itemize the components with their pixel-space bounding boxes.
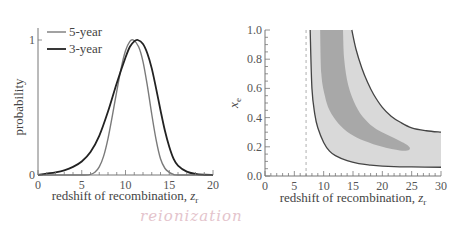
ionization-fraction-chart: 0510152025300.00.20.40.60.81.0 xe redshi… — [226, 23, 447, 207]
x-tick-label: 20 — [207, 178, 219, 192]
y-axis-label: probability — [11, 78, 26, 136]
y-tick-label: 1.0 — [247, 23, 262, 37]
legend-label: 5-year — [69, 24, 103, 39]
figure-canvas: 0510152001 5-year3-year probability reds… — [0, 0, 460, 228]
probability-curves — [38, 40, 213, 176]
y-tick-label: 0 — [29, 168, 35, 182]
x-tick-label: 0 — [35, 178, 41, 192]
y-tick-label: 0.4 — [247, 111, 262, 125]
y-tick-label: 0.8 — [247, 52, 262, 66]
confidence-regions — [310, 30, 441, 167]
legend-label: 3-year — [69, 41, 103, 56]
y-axis-label: xe — [226, 98, 243, 109]
handwritten-annotation: reionization — [140, 207, 243, 225]
x-tick-label: 30 — [435, 179, 447, 193]
y-tick-label: 1 — [29, 33, 35, 47]
y-tick-label: 0.6 — [247, 81, 262, 95]
curve-3-year — [38, 40, 213, 175]
left-axes: 0510152001 — [29, 28, 219, 192]
x-axis-label: redshift of recombination, zr — [280, 190, 427, 207]
x-axis-label: redshift of recombination, zr — [52, 188, 199, 205]
y-tick-label: 0.2 — [247, 140, 262, 154]
legend: 5-year3-year — [47, 24, 103, 56]
y-tick-label: 0.0 — [247, 169, 262, 183]
x-tick-label: 0 — [262, 179, 268, 193]
probability-chart: 0510152001 5-year3-year probability reds… — [11, 24, 219, 205]
